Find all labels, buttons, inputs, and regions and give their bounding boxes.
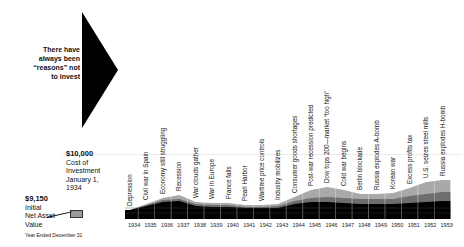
year-label: 1945 — [309, 222, 321, 228]
year-label: 1940 — [227, 222, 239, 228]
year-label: 1953 — [441, 222, 453, 228]
year-label: 1948 — [358, 222, 370, 228]
event-label: France falls — [225, 166, 232, 199]
event-label: U.S. seizes steel mills — [422, 117, 429, 178]
year-label: 1950 — [391, 222, 403, 228]
year-label: 1938 — [194, 222, 206, 228]
event-label: Industry mobilizes — [274, 150, 282, 200]
event-label: War in Europe — [208, 158, 216, 199]
event-label: Dow tops 200—market “too high” — [323, 91, 331, 183]
event-label: Excess profits tax — [406, 134, 414, 184]
event-label: Recession — [175, 161, 182, 191]
event-label: Korean war — [389, 157, 396, 189]
event-label: War clouds gather — [192, 147, 200, 198]
year-label: 1934 — [128, 222, 140, 228]
event-label: Wartime price controls — [258, 139, 266, 201]
year-label: 1936 — [161, 222, 173, 228]
year-label: 1937 — [177, 222, 189, 228]
year-label: 1942 — [260, 222, 272, 228]
year-label: 1939 — [210, 222, 222, 228]
event-label: Berlin blockade — [356, 146, 363, 190]
event-label: Russia explodes A-bomb — [373, 120, 381, 190]
year-label: 1949 — [375, 222, 387, 228]
year-label: 1943 — [276, 222, 288, 228]
event-label: Russia explodes H-bomb — [439, 105, 447, 176]
event-label: Economy still struggling — [159, 127, 167, 194]
year-label: 1946 — [325, 222, 337, 228]
area-chart: DepressionCivil war in SpainEconomy stil… — [0, 0, 464, 247]
event-label: Cold war begins — [340, 141, 348, 186]
year-axis-labels: 1934193519361937193819391940194119421943… — [128, 222, 453, 228]
year-label: 1952 — [424, 222, 436, 228]
event-label: Consumer goods shortages — [291, 116, 299, 193]
event-label: Depression — [126, 174, 134, 206]
event-label: Pearl Harbor — [241, 165, 248, 201]
event-label: Civil war in Spain — [142, 151, 150, 200]
year-label: 1941 — [243, 222, 255, 228]
year-label: 1947 — [342, 222, 354, 228]
year-label: 1935 — [144, 222, 156, 228]
event-label: Post-war recession predicted — [307, 104, 315, 186]
year-label: 1951 — [408, 222, 420, 228]
year-label: 1944 — [293, 222, 305, 228]
